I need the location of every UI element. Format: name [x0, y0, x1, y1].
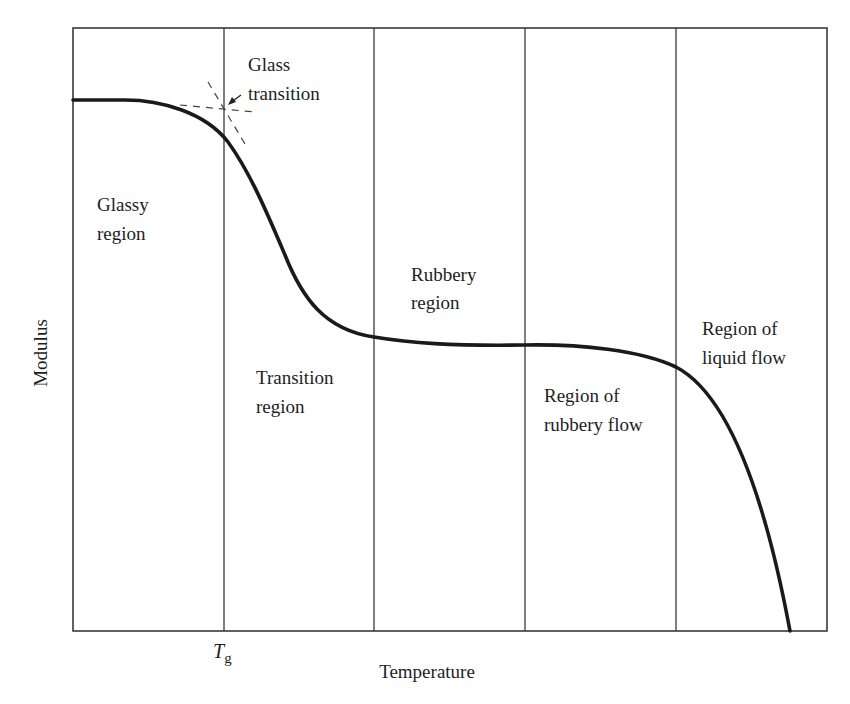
- region-liquid-flow-line2: liquid flow: [702, 347, 786, 368]
- tg-tick-label: Tg: [213, 640, 232, 666]
- region-transition-line1: Transition: [256, 367, 334, 388]
- region-transition-line2: region: [256, 396, 305, 417]
- modulus-curve: [73, 100, 790, 631]
- modulus-temperature-chart: Modulus Temperature Tg Glass transition …: [0, 0, 850, 704]
- region-rubbery-line1: Rubbery: [411, 264, 477, 285]
- region-rubbery-line2: region: [411, 292, 460, 313]
- region-rubbery-flow-line2: rubbery flow: [544, 414, 643, 435]
- annotation-glass-transition-line2: transition: [248, 83, 320, 104]
- tangent-line-horizontal: [180, 105, 255, 112]
- x-axis-label: Temperature: [379, 661, 475, 682]
- region-glassy-line1: Glassy: [97, 194, 149, 215]
- region-liquid-flow-line1: Region of: [702, 318, 778, 339]
- region-rubbery-flow-line1: Region of: [544, 385, 620, 406]
- annotation-glass-transition-line1: Glass: [248, 54, 290, 75]
- tangent-line-steep: [208, 82, 245, 144]
- y-axis-label: Modulus: [30, 319, 51, 387]
- glass-transition-arrow-icon: [228, 95, 241, 105]
- region-glassy-line2: region: [97, 223, 146, 244]
- tg-subscript: g: [224, 650, 232, 666]
